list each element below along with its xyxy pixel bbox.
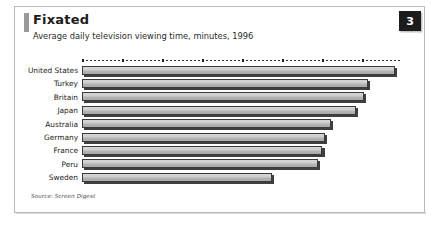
page-title: Fixated [33,12,89,27]
axis-tick [282,59,284,62]
category-label: Britain [15,93,78,102]
bar [82,106,356,115]
axis-tick [122,59,124,62]
chart-subtitle: Average daily television viewing time, m… [33,31,253,42]
axis-tick [242,59,244,62]
bar [82,173,272,182]
category-label: United States [15,66,78,75]
bar [82,133,325,142]
bar [82,79,368,88]
bar [82,146,322,155]
table-row: Britain [15,92,426,105]
table-row: France [15,145,426,158]
table-row: Germany [15,132,426,145]
chart-plot-area: United StatesTurkeyBritainJapanAustralia… [15,53,426,183]
category-label: Japan [15,106,78,115]
bar [82,159,318,168]
axis-tick [362,59,364,62]
top-axis-dotted-line [82,59,401,62]
category-label: Sweden [15,173,78,182]
source-note: Source: Screen Digest [31,193,95,199]
table-row: Australia [15,119,426,132]
chart-card: Fixated Average daily television viewing… [14,6,425,213]
bar-container [82,146,322,157]
bar-container [82,66,395,77]
axis-tick [202,59,204,62]
footer-divider [24,187,417,188]
chart-header: Fixated Average daily television viewing… [15,7,426,51]
category-label: France [15,146,78,155]
category-label: Australia [15,120,78,129]
category-label: Germany [15,133,78,142]
table-row: United States [15,65,426,78]
table-row: Peru [15,159,426,172]
bar-container [82,173,272,184]
chart-number-badge: 3 [399,11,421,31]
bar-container [82,119,331,130]
bar-container [82,159,318,170]
table-row: Turkey [15,78,426,91]
axis-tick [162,59,164,62]
bar-container [82,106,356,117]
axis-tick [82,59,84,62]
category-label: Peru [15,160,78,169]
table-row: Sweden [15,172,426,185]
table-row: Japan [15,105,426,118]
bar [82,119,331,128]
bar-container [82,92,364,103]
bar-container [82,79,368,90]
bar-container [82,133,325,144]
category-label: Turkey [15,79,78,88]
bar [82,66,395,75]
title-accent-bar [24,13,29,32]
bar [82,92,364,101]
axis-tick [322,59,324,62]
